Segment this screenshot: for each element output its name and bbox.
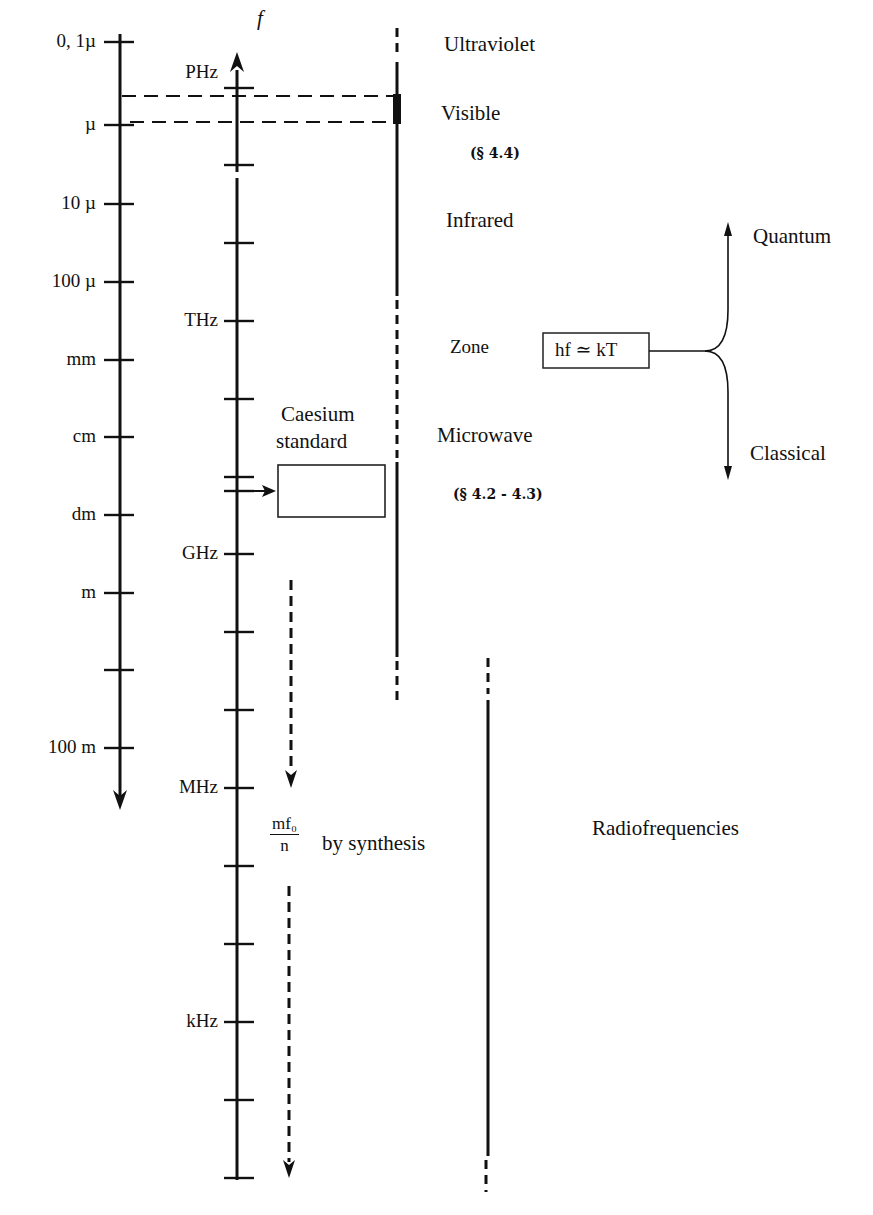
band-microwave-ref: (§ 4.2 - 4.3) xyxy=(453,487,543,501)
wavelength-tick-label: 100 µ xyxy=(52,271,96,290)
frequency-axis-label: f xyxy=(257,8,263,29)
caesium-box xyxy=(278,465,385,517)
wavelength-axis xyxy=(104,34,134,810)
band-separator-line xyxy=(393,28,401,700)
spectrum-diagram xyxy=(0,0,873,1215)
regime-classical: Classical xyxy=(750,443,826,464)
band-infrared: Infrared xyxy=(446,210,514,231)
band-microwave: Microwave xyxy=(437,425,533,446)
band-visible-ref: (§ 4.4) xyxy=(470,146,520,160)
frequency-tick-label: THz xyxy=(184,310,218,329)
caesium-label-line1: Caesium xyxy=(281,404,355,425)
band-visible: Visible xyxy=(441,103,500,124)
band-zone: Zone xyxy=(450,337,489,356)
synthesis-denominator: n xyxy=(280,835,289,854)
synthesis-numerator: mf₀ xyxy=(270,815,299,835)
band-radiofrequencies: Radiofrequencies xyxy=(592,818,739,839)
frequency-tick-label: kHz xyxy=(186,1011,218,1030)
frequency-tick-label: PHz xyxy=(185,62,218,81)
synthesis-text: by synthesis xyxy=(322,833,425,854)
regime-equation: hf ≃ kT xyxy=(555,340,617,359)
caesium-label-line2: standard xyxy=(276,431,347,452)
band-ultraviolet: Ultraviolet xyxy=(444,34,535,55)
wavelength-tick-label: 0, 1µ xyxy=(57,31,96,50)
frequency-tick-label: MHz xyxy=(179,777,218,796)
synthesis-arrows xyxy=(283,580,297,1178)
synthesis-fraction: mf₀ n xyxy=(270,815,299,854)
wavelength-tick-label: dm xyxy=(72,504,96,523)
wavelength-tick-label: 100 m xyxy=(48,737,96,756)
wavelength-tick-label: cm xyxy=(73,426,96,445)
wavelength-tick-label: m xyxy=(81,582,96,601)
wavelength-tick-label: µ xyxy=(85,114,96,133)
wavelength-tick-label: 10 µ xyxy=(61,193,96,212)
frequency-axis xyxy=(224,52,276,1180)
radio-boundary-line xyxy=(486,658,488,1192)
regime-quantum: Quantum xyxy=(753,226,831,247)
frequency-tick-label: GHz xyxy=(182,543,218,562)
visible-band-guides xyxy=(122,96,397,122)
wavelength-tick-label: mm xyxy=(66,349,96,368)
